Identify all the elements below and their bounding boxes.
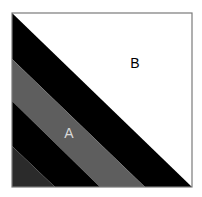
diagonal-band-diagram: B A [0,0,202,197]
regions-group [12,13,192,187]
label-a: A [64,125,74,141]
label-b: B [130,55,139,71]
